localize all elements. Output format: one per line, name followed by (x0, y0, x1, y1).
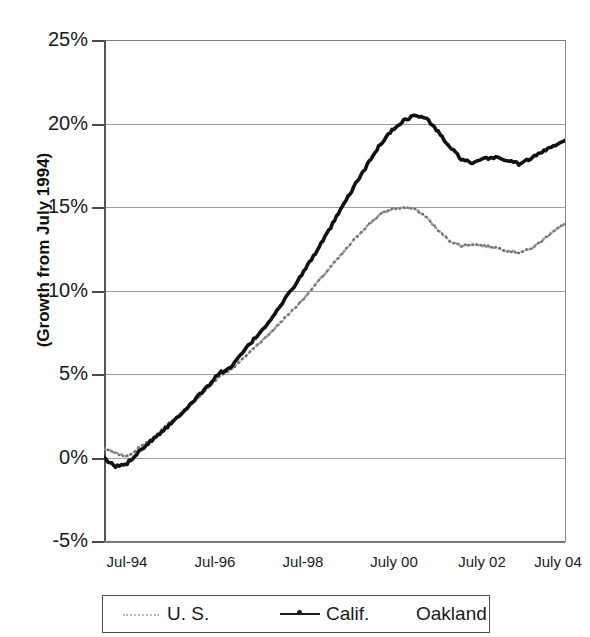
x-label-july-04: July 04 (534, 553, 582, 570)
y-label-25: 25% (48, 28, 88, 51)
series-line-calif (104, 115, 565, 467)
solid-line-marker-icon (278, 607, 322, 621)
chart-legend: U. S. Calif. Oakland (102, 595, 490, 633)
legend-label-calif: Calif. (326, 603, 369, 625)
x-label-jul-98: Jul-98 (283, 553, 324, 570)
y-tick-15 (92, 207, 104, 209)
legend-item-oakland: Oakland (416, 596, 487, 632)
y-tick-20 (92, 124, 104, 126)
y-tick-5 (92, 374, 104, 376)
y-label-5: 5% (59, 362, 88, 385)
legend-label-oakland: Oakland (416, 603, 487, 625)
x-label-july-02: July 02 (458, 553, 506, 570)
legend-item-calif: Calif. (278, 596, 369, 632)
x-label-jul-96: Jul-96 (195, 553, 236, 570)
legend-label-us: U. S. (167, 603, 209, 625)
legend-item-us: U. S. (119, 596, 209, 632)
plot-area (104, 40, 565, 542)
y-tick-25 (92, 40, 104, 42)
chart-container: 25% 20% 15% 10% 5% 0% -5% (Growth from J… (0, 0, 590, 590)
data-series-group (104, 40, 565, 542)
y-axis-title: (Growth from July 1994) (34, 110, 54, 390)
x-axis-tick-labels: Jul-94 Jul-96 Jul-98 July 00 July 02 Jul… (0, 553, 590, 577)
x-label-jul-94: Jul-94 (107, 553, 148, 570)
y-tick-10 (92, 291, 104, 293)
y-tick-0 (92, 458, 104, 460)
y-label-0: 0% (59, 446, 88, 469)
x-label-july-00: July 00 (370, 553, 418, 570)
y-label-neg5: -5% (52, 529, 88, 552)
dotted-line-icon (119, 607, 163, 621)
plot-border-right (565, 40, 566, 542)
y-tick-neg5 (92, 541, 104, 543)
